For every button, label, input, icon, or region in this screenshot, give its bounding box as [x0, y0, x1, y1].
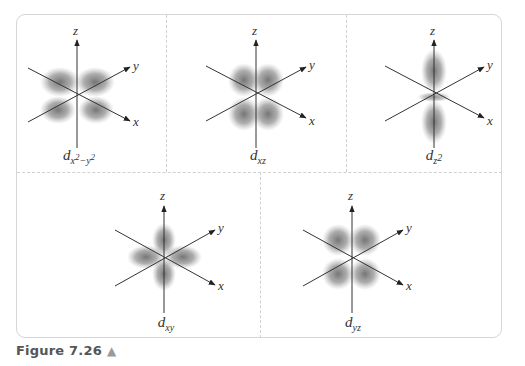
figure-caption: Figure 7.26▲: [16, 343, 116, 358]
up-triangle-icon[interactable]: ▲: [107, 344, 116, 358]
x-axis-label: x: [405, 278, 412, 293]
y-axis-label: y: [404, 220, 412, 235]
orbital-dyz-diagram: z y x: [0, 0, 525, 366]
figure-caption-label: Figure 7.26: [16, 343, 102, 358]
orbital-label-dyz: dyz: [345, 314, 361, 333]
z-axis-label: z: [347, 188, 353, 203]
